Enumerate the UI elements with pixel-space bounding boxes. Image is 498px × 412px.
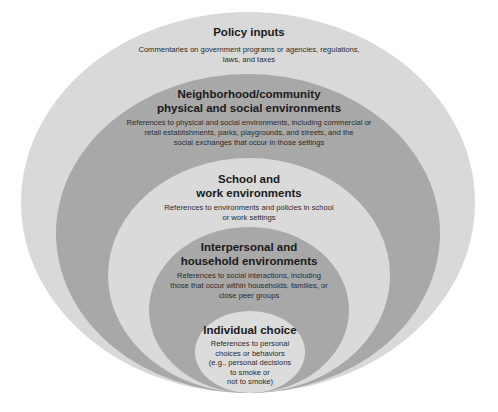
level-neighborhood-community: Neighborhood/community physical and soci… [0, 87, 498, 148]
level-description: References to physical and social enviro… [0, 118, 498, 148]
level-policy-inputs: Policy inputs Commentaries on government… [0, 25, 498, 65]
level-individual-choice: Individual choice References to personal… [1, 323, 498, 387]
level-title: Policy inputs [0, 25, 498, 39]
level-description: Commentaries on government programs or a… [0, 45, 498, 65]
level-interpersonal-household: Interpersonal and household environments… [0, 240, 498, 301]
level-description: References to personal choices or behavi… [1, 339, 498, 387]
level-description: References to social interactions, inclu… [0, 271, 498, 301]
level-title: Interpersonal and household environments [0, 240, 498, 268]
level-title: School and work environments [0, 172, 498, 200]
level-description: References to environments and policies … [0, 203, 498, 223]
level-school-work: School and work environments References … [0, 172, 498, 223]
level-title: Individual choice [1, 323, 498, 337]
level-title: Neighborhood/community physical and soci… [0, 87, 498, 115]
